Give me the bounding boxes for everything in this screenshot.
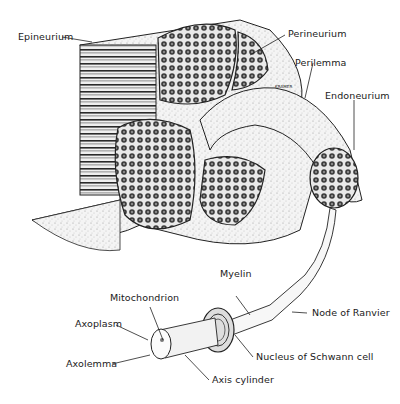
label-epineurium: Epineurium (18, 31, 73, 42)
label-node-of-ranvier: Node of Ranvier (312, 307, 390, 318)
label-perilemma: Perilemma (295, 57, 347, 68)
label-axis-cylinder: Axis cylinder (212, 374, 274, 385)
label-axoplasm: Axoplasm (75, 318, 122, 329)
label-perineurium: Perineurium (288, 28, 347, 39)
artist-signature: KRAMER (275, 84, 292, 89)
label-myelin: Myelin (220, 268, 252, 279)
label-endoneurium: Endoneurium (325, 90, 390, 101)
label-mitochondrion: Mitochondrion (110, 292, 179, 303)
label-axolemma: Axolemma (66, 358, 117, 369)
label-nucleus-of-schwann-cell: Nucleus of Schwann cell (256, 351, 374, 362)
